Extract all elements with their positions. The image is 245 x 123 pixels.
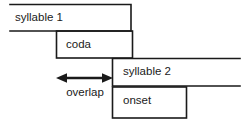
overlap-arrow-icon <box>56 73 113 83</box>
syllable-2-label: syllable 2 <box>123 66 171 78</box>
syllable-overlap-diagram: syllable 1 coda syllable 2 onset overlap <box>0 0 245 123</box>
overlap-label: overlap <box>57 87 113 99</box>
coda-label: coda <box>66 39 91 51</box>
syllable-1-label: syllable 1 <box>15 12 63 24</box>
onset-label: onset <box>123 95 151 107</box>
